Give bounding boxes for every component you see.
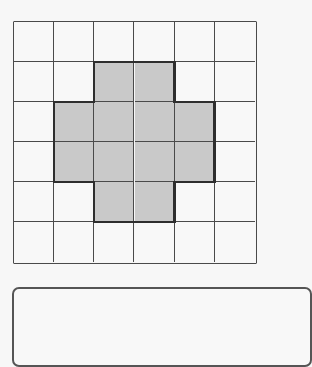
grid-cell (54, 62, 94, 102)
shape-outline-segment (134, 221, 176, 224)
grid-cell (215, 142, 255, 182)
grid-cell-shaded (94, 102, 134, 142)
grid-cell-shaded (135, 182, 175, 222)
shape-outline-segment (53, 101, 95, 104)
grid-cell (175, 22, 215, 62)
grid-cell (54, 222, 94, 262)
shape-outline-segment (93, 221, 135, 224)
grid-cell (94, 22, 134, 62)
grid-cell (14, 62, 54, 102)
grid-cell (94, 222, 134, 262)
grid-cell-shaded (54, 102, 94, 142)
grid-cell (175, 62, 215, 102)
shape-outline-segment (53, 101, 56, 143)
shading-grid (13, 21, 257, 264)
grid-cell-shaded (135, 62, 175, 102)
grid-cell (14, 222, 54, 262)
grid-cell-shaded (175, 142, 215, 182)
shape-outline-segment (174, 101, 216, 104)
grid-cell-shaded (54, 142, 94, 182)
shape-outline-segment (173, 181, 176, 223)
shape-outline-segment (53, 181, 95, 184)
grid-cell (215, 62, 255, 102)
shape-outline-segment (93, 61, 96, 103)
grid-cell (175, 182, 215, 222)
grid-cell (14, 142, 54, 182)
grid-cell (14, 102, 54, 142)
grid-cell-shaded (94, 62, 134, 102)
shape-outline-segment (134, 61, 176, 64)
grid-cell (14, 22, 54, 62)
shape-outline-segment (93, 61, 135, 64)
grid-cell (215, 102, 255, 142)
grid-cell (14, 182, 54, 222)
shape-outline-segment (53, 141, 56, 183)
grid-cell (135, 222, 175, 262)
grid-cell (54, 22, 94, 62)
shape-outline-segment (174, 181, 216, 184)
grid-cell-shaded (94, 182, 134, 222)
grid-cell (215, 222, 255, 262)
shape-outline-segment (173, 61, 176, 103)
grid-cell (215, 182, 255, 222)
grid-cell (54, 182, 94, 222)
grid-cell-shaded (135, 102, 175, 142)
grid-cell (135, 22, 175, 62)
grid-cell (215, 22, 255, 62)
shape-outline-segment (213, 101, 216, 143)
shape-outline-segment (213, 141, 216, 183)
grid-cell-shaded (175, 102, 215, 142)
shape-outline-segment (93, 181, 96, 223)
answer-box[interactable] (12, 287, 312, 367)
grid-cell (175, 222, 215, 262)
grid-cell-shaded (94, 142, 134, 182)
grid-cell-shaded (135, 142, 175, 182)
